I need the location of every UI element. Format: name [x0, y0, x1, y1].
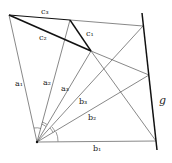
- label-c1: c₁: [86, 29, 94, 38]
- label-a1: a₁: [15, 79, 23, 88]
- label-b1: b₁: [93, 144, 101, 153]
- origin-point: [36, 141, 38, 143]
- line-g: [142, 13, 157, 150]
- label-a3: a₃: [61, 84, 69, 93]
- label-g: g: [159, 94, 166, 107]
- angle-arc-b3-b2: [50, 128, 53, 133]
- label-c2: c₂: [39, 33, 47, 42]
- angle-arc-b3-b2-2: [52, 127, 55, 132]
- label-c3: c₃: [41, 7, 49, 16]
- angle-arc-b2-b1: [56, 132, 58, 142]
- label-b3: b₃: [79, 97, 87, 106]
- angle-arc-a2-a3: [42, 124, 47, 127]
- angle-arc-a1-a2: [34, 128, 41, 129]
- segment-b1: [37, 141, 156, 142]
- diagram-canvas: c₃ c₂ c₁ a₁ a₂ a₃ b₃ b₂ b₁ g: [0, 0, 172, 163]
- line-p-g1: [70, 20, 143, 26]
- geometry-figure: c₃ c₂ c₁ a₁ a₂ a₃ b₃ b₂ b₁ g: [0, 0, 172, 163]
- label-a2: a₂: [43, 78, 51, 87]
- angle-arc-a2-a3-2: [42, 122, 47, 125]
- segment-a1: [9, 15, 37, 142]
- label-b2: b₂: [88, 113, 96, 122]
